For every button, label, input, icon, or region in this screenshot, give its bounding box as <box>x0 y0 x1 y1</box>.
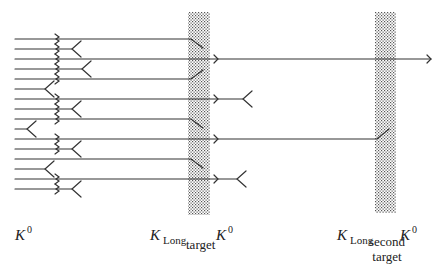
decay-fork-icon <box>45 161 54 177</box>
decay-fork-icon <box>243 91 252 107</box>
second-target-band <box>375 12 396 213</box>
label-klong-second: KLong <box>337 227 373 244</box>
decay-fork-icon <box>237 171 246 187</box>
target-band <box>188 12 210 215</box>
decay-fork-icon <box>72 41 81 57</box>
caption-second-target: second target <box>369 234 405 264</box>
caption-target: target <box>186 237 215 252</box>
targets-layer <box>188 12 396 215</box>
decay-fork-icon <box>82 61 91 77</box>
decay-fork-icon <box>45 81 54 97</box>
beam-path <box>15 70 203 79</box>
decay-fork-icon <box>72 101 81 117</box>
decay-fork-icon <box>72 181 81 197</box>
beam-path <box>15 119 203 128</box>
beam-diagram <box>0 0 433 264</box>
label-klong-after-target: KLong <box>150 227 186 244</box>
decay-fork-icon <box>27 121 36 137</box>
label-k0-after-target: K0 <box>216 227 233 244</box>
label-k0-initial: K0 <box>15 227 32 244</box>
beam-path <box>15 159 203 168</box>
beams-layer <box>15 34 431 197</box>
decay-fork-icon <box>72 141 81 157</box>
beam-path <box>15 39 203 48</box>
